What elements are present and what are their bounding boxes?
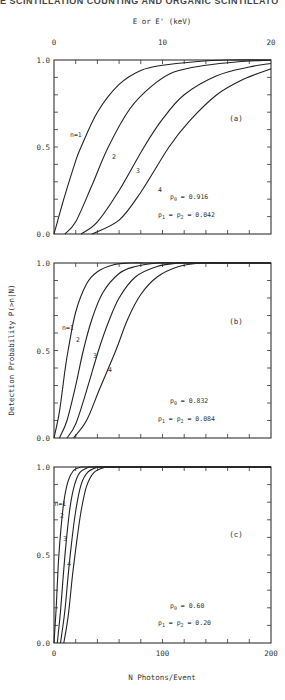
- curve-label: n=1: [55, 500, 67, 508]
- panel-label: (c): [229, 530, 243, 539]
- curve-4: [64, 467, 271, 643]
- top-tick-label: 20: [266, 38, 276, 47]
- y-tick-label: 0.5: [36, 551, 50, 560]
- curve-1: [54, 60, 271, 234]
- annotation-p0: p0 = 0.60: [170, 602, 204, 611]
- top-tick-label: 0: [52, 38, 57, 47]
- y-tick-label: 1.0: [36, 463, 50, 472]
- plot-frame: [54, 467, 271, 643]
- y-tick-label: 1.0: [36, 259, 50, 268]
- panel-c: 0.00.51.0n=1234(c)p0 = 0.60p1 = p2 = 0.2…: [36, 463, 271, 648]
- annotation-p0: p0 = 0.832: [170, 397, 208, 406]
- y-tick-label: 0.0: [36, 434, 50, 443]
- panel-a: 0.00.51.0n=1234(a)p0 = 0.916p1 = p2 = 0.…: [36, 56, 271, 239]
- annotation-p1-p2: p1 = p2 = 0.20: [158, 619, 211, 628]
- curve-4: [92, 69, 271, 234]
- curve-2: [65, 60, 271, 234]
- curve-3: [81, 64, 271, 235]
- curve-label: 3: [136, 167, 140, 175]
- x-tick-label: 200: [264, 649, 278, 658]
- curve-label: 2: [112, 153, 116, 161]
- plot-frame: [54, 263, 271, 438]
- plot-frame: [54, 60, 271, 234]
- curve-label: 4: [108, 366, 112, 374]
- panel-label: (a): [229, 114, 243, 123]
- top-axis-title: E or E' (keV): [133, 17, 192, 26]
- detection-probability-chart: E or E' (keV)010200.00.51.0n=1234(a)p0 =…: [0, 0, 285, 700]
- curve-3: [61, 467, 272, 643]
- curve-2: [57, 467, 271, 643]
- x-tick-label: 100: [156, 649, 170, 658]
- curve-label: 4: [158, 186, 162, 194]
- panel-label: (b): [229, 317, 243, 326]
- annotation-p1-p2: p1 = p2 = 0.042: [158, 211, 215, 220]
- x-axis-title: N Photons/Event: [128, 673, 196, 682]
- panel-b: 0.00.51.0n=1234(b)p0 = 0.832p1 = p2 = 0.…: [36, 259, 271, 443]
- curve-1: [54, 263, 271, 438]
- curve-label: 2: [76, 336, 80, 344]
- annotation-p0: p0 = 0.916: [170, 193, 208, 202]
- y-tick-label: 0.0: [36, 230, 50, 239]
- curve-1: [54, 467, 271, 643]
- curve-label: n=1: [70, 131, 82, 139]
- top-tick-label: 10: [158, 38, 168, 47]
- x-tick-label: 0: [52, 649, 57, 658]
- y-tick-label: 1.0: [36, 56, 50, 65]
- curve-label: 3: [63, 535, 67, 543]
- curve-4: [74, 263, 272, 438]
- y-tick-label: 0.5: [36, 347, 50, 356]
- annotation-p1-p2: p1 = p2 = 0.084: [158, 415, 215, 424]
- y-axis-title: Detection Probability P(>n|N): [7, 285, 16, 416]
- y-tick-label: 0.5: [36, 143, 50, 152]
- y-tick-label: 0.0: [36, 639, 50, 648]
- curve-3: [67, 263, 271, 438]
- curve-label: 3: [93, 352, 97, 360]
- curve-label: n=1: [62, 324, 74, 332]
- curve-2: [59, 263, 271, 438]
- curve-label: 2: [60, 512, 64, 520]
- curve-label: 4: [67, 560, 71, 568]
